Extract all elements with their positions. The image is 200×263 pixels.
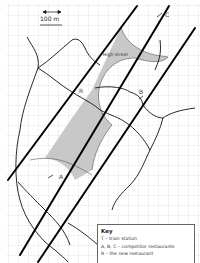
point-a-label: A: [59, 173, 63, 180]
point-t-label: T: [101, 112, 105, 119]
key-item-new-restaurant: R – the new restaurant: [101, 250, 191, 258]
high-street-label: High street: [103, 52, 128, 57]
map-key: Key T – train station A, B, C – competit…: [97, 224, 195, 263]
key-title: Key: [101, 227, 191, 235]
point-b-label: B: [139, 88, 143, 95]
point-r-label: R: [79, 87, 83, 94]
point-c-label: C: [165, 11, 169, 18]
key-item-train-station: T – train station: [101, 235, 191, 243]
key-item-competitors: A, B, C – competitor restaurants: [101, 243, 191, 251]
scale-bar-label: 100 m: [40, 15, 59, 22]
